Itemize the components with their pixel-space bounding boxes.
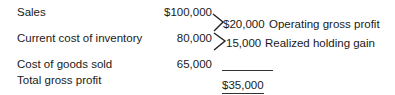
realized-holding-gain-amount: 15,000 [226,37,261,50]
total-cell: $35,000 [222,70,273,95]
bracket-lower-icon [214,33,225,50]
operating-gross-profit-label: Operating gross profit [269,18,380,31]
operating-gross-profit-amount: $20,000 [223,18,265,31]
bracket-upper-icon [213,14,223,31]
realized-holding-gain-label: Realized holding gain [265,37,375,50]
total-gross-profit-amount: $35,000 [222,79,264,95]
